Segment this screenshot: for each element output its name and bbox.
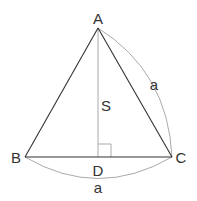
altitude-label-s: S [101, 97, 111, 114]
vertex-label-d: D [93, 162, 104, 179]
vertex-label-b: B [11, 149, 21, 166]
arc-label-bc: a [94, 179, 103, 196]
triangle-diagram: A B C D S a a [0, 0, 197, 201]
arc-label-ac: a [150, 76, 159, 93]
side-ac [98, 28, 172, 157]
vertex-label-c: C [176, 149, 187, 166]
vertex-label-a: A [93, 10, 103, 27]
right-angle-marker [98, 144, 111, 157]
side-ab [25, 28, 98, 157]
